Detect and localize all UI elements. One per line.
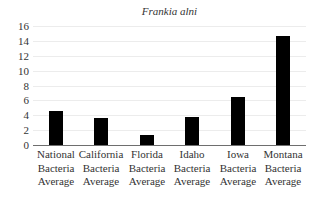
bar <box>276 36 290 145</box>
bar <box>231 97 245 145</box>
gridline <box>33 115 306 116</box>
x-tick-label: MontanaBacteriaAverage <box>253 148 313 189</box>
y-tick-label: 6 <box>0 94 29 106</box>
y-tick-label: 8 <box>0 80 29 92</box>
y-tick-label: 0 <box>0 139 29 151</box>
y-tick-label: 12 <box>0 50 29 62</box>
x-tick-label-line: Average <box>253 175 313 189</box>
gridline <box>33 130 306 131</box>
chart-title: Frankia alni <box>33 5 306 17</box>
y-tick-label: 14 <box>0 35 29 47</box>
gridline <box>33 26 306 27</box>
y-tick-label: 16 <box>0 20 29 32</box>
bar <box>49 111 63 145</box>
gridline <box>33 71 306 72</box>
bar <box>140 135 154 145</box>
gridline <box>33 56 306 57</box>
gridline <box>33 41 306 42</box>
y-tick-label: 2 <box>0 124 29 136</box>
gridline <box>33 100 306 101</box>
x-tick-label-line: Montana <box>253 148 313 162</box>
gridline <box>33 86 306 87</box>
y-tick-label: 4 <box>0 109 29 121</box>
bar <box>94 118 108 145</box>
bar-chart: Frankia alni 0246810121416 NationalBacte… <box>0 0 322 199</box>
x-tick-label-line: Bacteria <box>253 162 313 176</box>
x-axis-line <box>33 145 306 146</box>
bar <box>185 117 199 145</box>
y-tick-label: 10 <box>0 65 29 77</box>
